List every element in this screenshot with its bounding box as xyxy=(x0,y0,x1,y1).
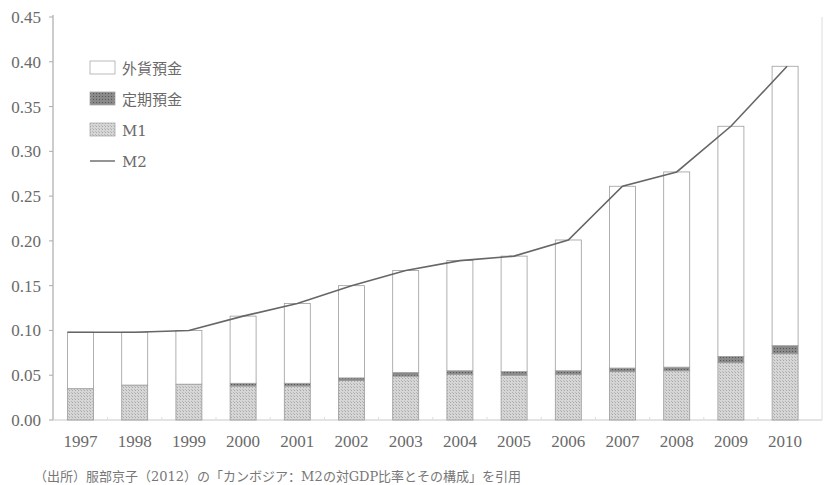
bar-segment-time-deposit xyxy=(339,378,365,381)
bar-segment-foreign-deposit xyxy=(664,172,690,367)
x-tick-label: 2006 xyxy=(551,432,585,451)
bar-segment-foreign-deposit xyxy=(772,66,798,345)
legend-swatch-m1 xyxy=(90,123,115,136)
bar-segment-time-deposit xyxy=(772,346,798,354)
bar-segment-m1 xyxy=(339,381,365,420)
bar-segment-m1 xyxy=(664,371,690,420)
bar-segment-m1 xyxy=(68,389,94,420)
x-tick-label: 2009 xyxy=(714,432,748,451)
bar-segment-foreign-deposit xyxy=(610,186,636,368)
bar-segment-m1 xyxy=(230,386,256,420)
bar-segment-foreign-deposit xyxy=(555,240,581,371)
legend-label: M2 xyxy=(122,153,147,171)
bar-segment-time-deposit xyxy=(284,383,310,386)
y-tick-label: 0.25 xyxy=(11,187,41,206)
x-tick-label: 2000 xyxy=(226,432,260,451)
legend-label: M1 xyxy=(122,122,147,140)
legend-label: 外貨預金 xyxy=(122,60,182,78)
x-tick-label: 2004 xyxy=(443,432,478,451)
y-tick-label: 0.30 xyxy=(11,142,41,161)
y-tick-label: 0.40 xyxy=(11,53,41,72)
y-tick-label: 0.05 xyxy=(11,366,41,385)
bar-segment-m1 xyxy=(555,374,581,420)
x-tick-label: 2001 xyxy=(280,432,314,451)
x-tick-label: 1998 xyxy=(118,432,152,451)
bar-segment-foreign-deposit xyxy=(230,316,256,383)
bar-segment-m1 xyxy=(772,354,798,420)
y-tick-label: 0.20 xyxy=(11,232,41,251)
bar-segment-m1 xyxy=(176,384,202,420)
bar-segment-time-deposit xyxy=(718,356,744,362)
x-tick-label: 2008 xyxy=(660,432,694,451)
x-tick-label: 2005 xyxy=(497,432,531,451)
bar-segment-foreign-deposit xyxy=(68,332,94,388)
bar-segment-m1 xyxy=(284,386,310,420)
bar-segment-m1 xyxy=(447,374,473,420)
x-tick-label: 2002 xyxy=(335,432,369,451)
x-tick-label: 2003 xyxy=(389,432,423,451)
bar-segment-time-deposit xyxy=(393,373,419,377)
bar-segment-foreign-deposit xyxy=(122,332,148,385)
bar-segment-foreign-deposit xyxy=(447,261,473,371)
legend: 外貨預金定期預金M1M2 xyxy=(90,60,182,171)
bar-segment-m1 xyxy=(393,376,419,420)
bar-segment-time-deposit xyxy=(664,367,690,371)
x-tick-label: 1999 xyxy=(172,432,206,451)
y-tick-label: 0.35 xyxy=(11,98,41,117)
bar-segment-m1 xyxy=(122,385,148,420)
legend-swatch-time-deposit xyxy=(90,92,115,105)
bar-segment-time-deposit xyxy=(501,372,527,376)
bar-segment-foreign-deposit xyxy=(339,286,365,378)
bar-segment-time-deposit xyxy=(610,368,636,372)
y-tick-label: 0.45 xyxy=(11,8,41,27)
source-caption: （出所）服部京子（2012）の「カンボジア：M2の対GDP比率とその構成」を引用 xyxy=(34,466,521,485)
x-tick-label: 1997 xyxy=(64,432,99,451)
bar-segment-m1 xyxy=(718,363,744,420)
y-tick-label: 0.10 xyxy=(11,321,41,340)
y-tick-label: 0.00 xyxy=(11,411,41,430)
bar-segment-foreign-deposit xyxy=(393,270,419,372)
bar-segment-time-deposit xyxy=(230,383,256,386)
bar-segment-foreign-deposit xyxy=(176,330,202,384)
bar-segment-foreign-deposit xyxy=(284,304,310,384)
bar-segment-time-deposit xyxy=(447,371,473,375)
bar-segment-foreign-deposit xyxy=(718,126,744,356)
x-tick-label: 2010 xyxy=(768,432,802,451)
bar-segment-time-deposit xyxy=(555,371,581,375)
bars xyxy=(68,66,799,420)
bar-segment-m1 xyxy=(501,375,527,420)
x-tick-label: 2007 xyxy=(606,432,641,451)
legend-label: 定期預金 xyxy=(122,91,182,109)
bar-segment-m1 xyxy=(610,372,636,420)
bar-segment-foreign-deposit xyxy=(501,256,527,372)
y-tick-label: 0.15 xyxy=(11,277,41,296)
legend-swatch-foreign-deposit xyxy=(90,61,115,74)
